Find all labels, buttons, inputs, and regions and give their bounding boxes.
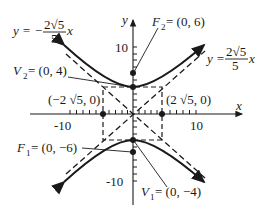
y-axis-label: y	[120, 12, 128, 27]
svg-text:2√5: 2√5	[44, 17, 64, 32]
svg-text:x: x	[248, 51, 255, 66]
hyperbola-diagram: x y -10 10 10 -10 y = − 2√5 5 x y = 2√5 …	[0, 0, 269, 212]
focus-f1-label: F 1 = (0, −6)	[16, 140, 77, 158]
co-vertex-right-label: (2 √5, 0)	[166, 92, 211, 107]
x-tick-neg10: -10	[54, 118, 71, 133]
focus-f2-label: F 2 = (0, 6)	[151, 14, 205, 32]
asymptote-negative-label: y = − 2√5 5 x	[11, 17, 73, 46]
asymptote-positive-label: y = 2√5 5 x	[205, 44, 255, 73]
co-vertex-right-point	[159, 111, 165, 117]
y-tick-10: 10	[115, 40, 128, 55]
svg-text:5: 5	[232, 58, 239, 73]
vertex-v1-label: V 1 = (0, −4)	[141, 184, 201, 202]
y-tick-neg10: -10	[106, 174, 123, 189]
svg-text:2: 2	[161, 22, 166, 32]
svg-text:x: x	[66, 23, 73, 38]
svg-text:F: F	[151, 14, 161, 29]
svg-text:= (0, −6): = (0, −6)	[31, 140, 77, 155]
lower-branch	[64, 140, 204, 182]
svg-text:2: 2	[23, 71, 28, 81]
upper-branch	[64, 45, 204, 87]
svg-text:2√5: 2√5	[226, 44, 246, 59]
x-tick-10: 10	[190, 118, 203, 133]
svg-text:F: F	[16, 140, 26, 155]
co-vertex-left-label: (−2 √5, 0)	[48, 92, 100, 107]
svg-text:y =: y =	[205, 51, 225, 66]
x-axis-label: x	[235, 98, 242, 113]
svg-text:1: 1	[150, 192, 155, 202]
x-axis	[30, 110, 242, 114]
svg-text:= (0, 6): = (0, 6)	[166, 14, 205, 29]
vertex-v2-label: V 2 = (0, 4)	[13, 63, 67, 81]
svg-text:= (0, −4): = (0, −4)	[155, 184, 201, 199]
svg-text:y = −: y = −	[11, 23, 43, 38]
co-vertex-left-point	[100, 111, 106, 117]
svg-text:= (0, 4): = (0, 4)	[28, 63, 67, 78]
svg-text:5: 5	[51, 31, 58, 46]
svg-text:1: 1	[26, 148, 31, 158]
svg-text:V: V	[13, 63, 23, 78]
y-axis	[133, 20, 137, 205]
